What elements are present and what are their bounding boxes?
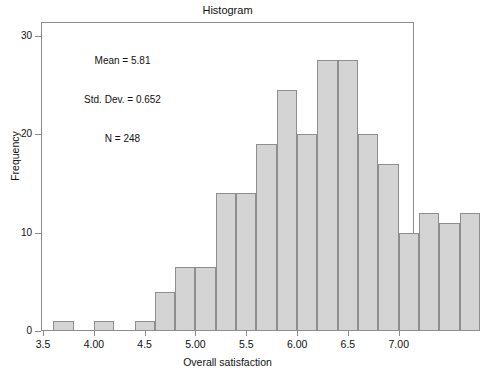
x-tick-label: 4.00 [74,338,114,350]
histogram-bar [195,267,215,331]
y-tick-label: 20 [21,129,32,139]
histogram-bar [358,134,378,331]
chart-title: Histogram [41,3,414,17]
x-tick-mark [43,331,44,336]
x-tick-label: 5.00 [175,338,215,350]
y-tick-mark [35,134,41,135]
histogram-bar [53,321,73,331]
histogram-bar [256,144,276,331]
x-tick-mark [145,331,146,336]
annotation-n: N = 248 [55,132,190,145]
y-axis-title: Frequency [9,96,21,216]
x-tick-label: 6.5 [328,338,368,350]
histogram-bar [460,213,480,331]
histogram-bar [338,60,358,331]
x-tick-label: 7.00 [379,338,419,350]
histogram-bar [399,233,419,331]
x-tick-mark [348,331,349,336]
x-tick-mark [195,331,196,336]
x-tick-label: 4.5 [125,338,165,350]
x-tick-label: 3.5 [23,338,63,350]
y-tick-mark [35,36,41,37]
x-tick-mark [297,331,298,336]
annotation-std-dev: Std. Dev. = 0.652 [55,93,190,106]
y-tick-label: 10 [21,228,32,238]
histogram-bar [175,267,195,331]
histogram-bar [94,321,114,331]
x-axis: Overall satisfaction 3.54.004.55.005.56.… [0,331,427,380]
x-tick-label: 6.00 [277,338,317,350]
x-tick-mark [246,331,247,336]
stats-annotation: Mean = 5.81 Std. Dev. = 0.652 N = 248 [55,28,190,171]
histogram-bar [216,193,236,331]
histogram-bar [135,321,155,331]
histogram-bar [277,90,297,331]
y-axis: Frequency 0102030 [0,0,41,380]
histogram-bar [439,223,459,331]
y-tick-label: 30 [21,31,32,41]
histogram-bar [378,164,398,331]
x-tick-label: 5.5 [226,338,266,350]
x-axis-title: Overall satisfaction [41,356,414,368]
histogram-bar [419,213,439,331]
x-tick-mark [399,331,400,336]
y-tick-mark [35,233,41,234]
histogram-bar [297,134,317,331]
x-tick-mark [94,331,95,336]
histogram-bar [236,193,256,331]
histogram-bar [317,60,337,331]
annotation-mean: Mean = 5.81 [55,54,190,67]
histogram-bar [155,292,175,331]
